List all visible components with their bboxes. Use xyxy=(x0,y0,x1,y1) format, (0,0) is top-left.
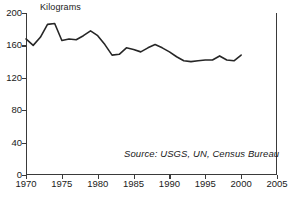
line-series-kilograms xyxy=(26,24,241,62)
source-note: Source: USGS, UN, Census Bureau xyxy=(124,148,279,159)
series-layer xyxy=(0,0,290,200)
chart-container: Kilograms 04080120160200 197019751980198… xyxy=(0,0,290,200)
